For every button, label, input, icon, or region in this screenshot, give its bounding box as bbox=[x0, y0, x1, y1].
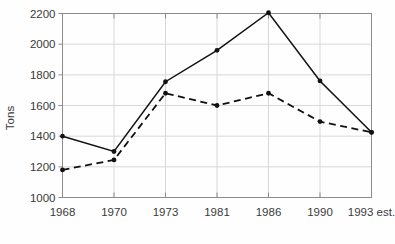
x-tick-label: 1970 bbox=[101, 206, 127, 218]
data-point-marker bbox=[318, 79, 323, 84]
x-tick-label: 1981 bbox=[204, 206, 230, 218]
x-tick-label: 1993 est. bbox=[348, 206, 395, 218]
y-tick-label: 1200 bbox=[30, 161, 56, 173]
data-point-marker bbox=[112, 158, 117, 163]
chart-figure: 1000120014001600180020002200 19681970197… bbox=[0, 0, 395, 244]
x-tick-label: 1990 bbox=[307, 206, 333, 218]
y-tick-label: 1400 bbox=[30, 130, 56, 142]
line-chart-canvas: 1000120014001600180020002200 19681970197… bbox=[0, 0, 395, 244]
x-tick-label: 1973 bbox=[153, 206, 179, 218]
y-tick-label: 1600 bbox=[30, 100, 56, 112]
data-point-marker bbox=[318, 119, 323, 124]
data-point-marker bbox=[112, 149, 117, 154]
y-tick-label: 1800 bbox=[30, 69, 56, 81]
y-axis-title: Tons bbox=[4, 106, 16, 131]
data-point-marker bbox=[60, 168, 65, 173]
y-tick-label: 1000 bbox=[30, 192, 56, 204]
y-tick-label: 2200 bbox=[30, 8, 56, 20]
data-point-marker bbox=[60, 134, 65, 139]
x-tick-label: 1986 bbox=[256, 206, 282, 218]
x-tick-label: 1968 bbox=[50, 206, 76, 218]
data-point-marker bbox=[266, 10, 271, 15]
data-point-marker bbox=[163, 79, 168, 84]
data-point-marker bbox=[369, 130, 374, 135]
data-point-marker bbox=[163, 91, 168, 96]
data-point-marker bbox=[215, 48, 220, 53]
y-tick-labels-group: 1000120014001600180020002200 bbox=[30, 8, 56, 204]
data-point-marker bbox=[266, 91, 271, 96]
x-tick-labels-group: 1968197019731981198619901993 est. bbox=[50, 206, 395, 218]
data-point-marker bbox=[215, 103, 220, 108]
y-tick-label: 2000 bbox=[30, 38, 56, 50]
